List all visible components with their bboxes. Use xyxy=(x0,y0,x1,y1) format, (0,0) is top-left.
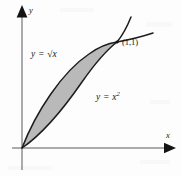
curve-label-x-squared-exponent: 2 xyxy=(117,90,121,97)
curve-label-sqrt-x: y = √x xyxy=(31,50,57,60)
curve-label-x-squared-base: y = x xyxy=(96,92,117,102)
y-axis-arrowhead xyxy=(17,5,28,18)
graph-figure: y = √x y = x2 (1,1) y x xyxy=(0,0,181,176)
y-axis-label: y xyxy=(29,6,33,15)
intersection-point-label: (1,1) xyxy=(122,38,138,47)
curve-label-x-squared: y = x2 xyxy=(96,91,120,103)
coordinate-plot-svg xyxy=(0,0,181,176)
x-axis-label: x xyxy=(166,131,170,140)
x-axis-arrowhead xyxy=(164,143,176,153)
intersection-point-marker xyxy=(115,40,118,43)
